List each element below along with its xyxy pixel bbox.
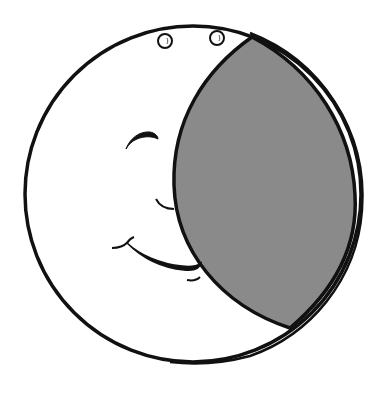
moon-illustration: Smiling crescent moon face [0, 0, 385, 393]
moon-face-art [0, 0, 385, 393]
top-hole-right-icon [210, 31, 224, 45]
top-hole-left-icon [158, 34, 172, 48]
